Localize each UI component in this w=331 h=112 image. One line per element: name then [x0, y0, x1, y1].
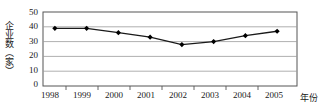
x-tick-label-1999: 1999	[67, 90, 97, 100]
series-markers	[52, 26, 279, 47]
x-tick-label-2005: 2005	[259, 90, 289, 100]
data-point-2002	[179, 42, 184, 47]
x-tick-label-2003: 2003	[195, 90, 225, 100]
data-point-2001	[148, 35, 153, 40]
x-tick-label-2001: 2001	[131, 90, 161, 100]
line-chart: 企业数（家） 50 40 30 20 10 0 1998 1999 2000 2…	[0, 0, 331, 112]
x-tick-label-2004: 2004	[227, 90, 257, 100]
x-tick-label-1998: 1998	[35, 90, 65, 100]
x-axis-title: 年份	[300, 91, 318, 104]
data-point-2003	[211, 39, 216, 44]
plot-frame	[43, 12, 297, 86]
x-tick-label-2000: 2000	[99, 90, 129, 100]
data-point-2004	[243, 33, 248, 38]
data-point-2000	[116, 30, 121, 35]
data-point-2005	[275, 29, 280, 34]
x-tick-label-2002: 2002	[163, 90, 193, 100]
